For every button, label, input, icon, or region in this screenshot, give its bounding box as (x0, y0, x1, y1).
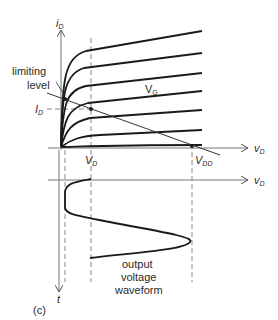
time-axis-label: t (57, 294, 60, 305)
waveform-label-1: output (122, 259, 153, 270)
q-point (89, 107, 93, 111)
id-axis-label: iD (56, 18, 64, 30)
output-waveform (65, 179, 191, 258)
characteristic-curves (61, 31, 202, 147)
curve-4 (61, 91, 202, 147)
id-quiescent-label: ID (35, 104, 43, 116)
limit-point (63, 97, 67, 101)
curve-5 (61, 73, 202, 147)
vd-axis-label: vD (254, 143, 265, 155)
curve-1 (61, 145, 202, 147)
vg-label: VG (145, 84, 158, 96)
limiting-level-label-1: limiting (12, 66, 46, 77)
waveform-label-3: waveform (115, 285, 163, 296)
vdd-label: VDD (195, 155, 212, 167)
curve-7 (61, 31, 202, 147)
limiting-level-label-2: level (27, 80, 50, 91)
waveform-label-2: voltage (121, 272, 156, 283)
lower-vd-axis-label: vD (254, 175, 265, 187)
vdd-point (190, 144, 194, 148)
panel-label: (c) (33, 305, 46, 316)
vd-quiescent-label: VD (85, 155, 97, 167)
